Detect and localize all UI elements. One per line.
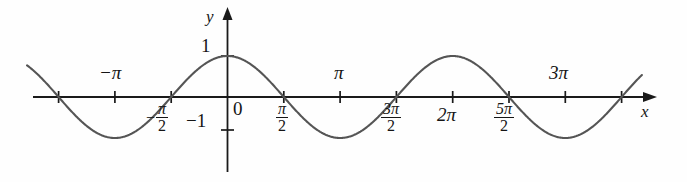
fraction-numerator: π <box>276 101 288 118</box>
x-tick-label-3pi-over-2: 3π2 <box>381 101 401 135</box>
fraction-denominator: 2 <box>381 118 401 134</box>
x-tick-label-3pi: 3π <box>549 63 568 82</box>
y-tick-label-neg-one: −1 <box>186 111 206 130</box>
minus-sign-glyph: − <box>146 110 156 126</box>
origin-label: 0 <box>233 99 243 118</box>
y-tick-label-one: 1 <box>201 36 211 55</box>
fraction-neg-pi-over-2: π2 <box>156 101 168 135</box>
x-axis-label: x <box>641 103 649 120</box>
x-tick-label-pi-over-2: π2 <box>276 101 288 135</box>
x-tick-label-5pi-over-2: 5π2 <box>494 101 514 135</box>
fraction-numerator: 5π <box>494 101 514 118</box>
x-tick-label-pi: π <box>334 63 344 82</box>
fraction-pi-over-2: π2 <box>276 101 288 135</box>
plot-canvas <box>0 0 687 182</box>
fraction-numerator: π <box>156 101 168 118</box>
fraction-numerator: 3π <box>381 101 401 118</box>
x-tick-label-2pi: 2π <box>437 105 456 124</box>
y-axis <box>223 7 233 172</box>
fraction-3pi-over-2: 3π2 <box>381 101 401 135</box>
fraction-denominator: 2 <box>276 118 288 134</box>
x-axis <box>33 92 657 102</box>
cosine-plot-figure: y x 1 −1 0 −π −π2 π2 π 3π2 2π 5π2 3π <box>0 0 687 182</box>
fraction-denominator: 2 <box>156 118 168 134</box>
x-tick-label-neg-pi-over-2: −π2 <box>146 101 168 135</box>
fraction-5pi-over-2: 5π2 <box>494 101 514 135</box>
fraction-denominator: 2 <box>494 118 514 134</box>
x-tick-label-neg-pi: −π <box>99 63 121 82</box>
y-axis-label: y <box>206 8 214 25</box>
